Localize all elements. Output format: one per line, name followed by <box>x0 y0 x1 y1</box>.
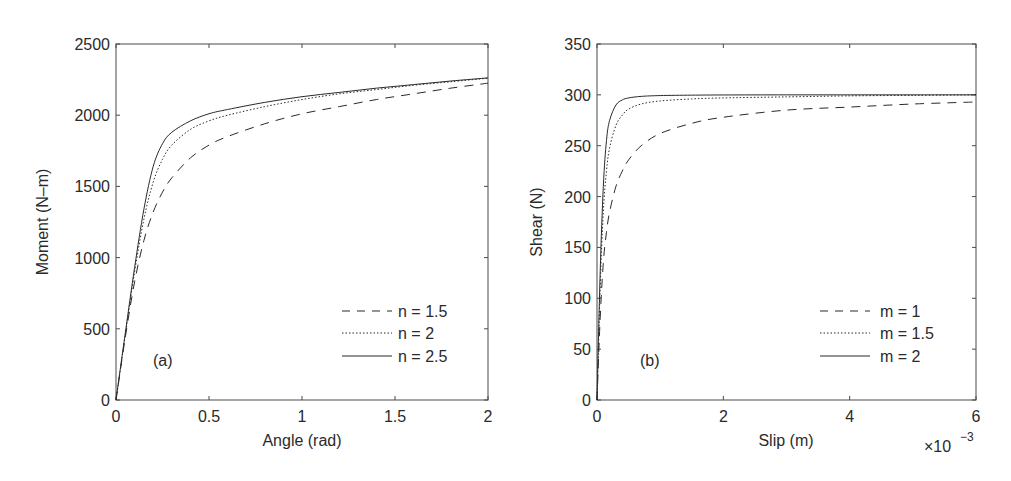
legend-label: m = 1.5 <box>880 325 934 342</box>
y-tick-label: 0 <box>582 392 591 409</box>
legend-b: m = 1 m = 1.5 m = 2 <box>820 303 934 365</box>
x-tick-label: 0 <box>112 408 121 425</box>
x-tick-label: 0.5 <box>198 408 220 425</box>
chart-panel-b: 0246050100150200250300350 Slip (m) Shear… <box>528 36 981 455</box>
y-tick-label: 100 <box>564 290 591 307</box>
x-multiplier: ×10 −3 <box>924 430 974 455</box>
y-tick-label: 200 <box>564 189 591 206</box>
y-axis-label-a: Moment (N–m) <box>34 169 51 276</box>
axis-ticks-a: 00.511.5205001000150020002500 <box>74 36 492 425</box>
figure: 00.511.5205001000150020002500 Angle (rad… <box>0 0 1011 481</box>
x-axis-label-b: Slip (m) <box>758 432 813 449</box>
x-tick-label: 6 <box>972 408 981 425</box>
x-tick-label: 2 <box>484 408 493 425</box>
chart-panel-a: 00.511.5205001000150020002500 Angle (rad… <box>34 36 493 449</box>
panel-label-b: (b) <box>640 352 660 369</box>
x-tick-label: 1 <box>298 408 307 425</box>
legend-label: m = 2 <box>880 348 921 365</box>
y-tick-label: 250 <box>564 138 591 155</box>
plot-frame-b <box>597 44 976 400</box>
y-tick-label: 1500 <box>74 178 110 195</box>
y-tick-label: 1000 <box>74 250 110 267</box>
y-tick-label: 500 <box>83 321 110 338</box>
x-axis-label-a: Angle (rad) <box>262 432 341 449</box>
panel-label-a: (a) <box>153 352 173 369</box>
x-tick-label: 4 <box>845 408 854 425</box>
y-tick-label: 350 <box>564 36 591 53</box>
legend-label: n = 1.5 <box>398 303 447 320</box>
x-tick-label: 0 <box>593 408 602 425</box>
y-tick-label: 50 <box>573 341 591 358</box>
y-tick-label: 2500 <box>74 36 110 53</box>
x-multiplier-exponent: −3 <box>960 430 974 444</box>
legend-label: m = 1 <box>880 303 921 320</box>
y-tick-label: 300 <box>564 87 591 104</box>
y-tick-label: 2000 <box>74 107 110 124</box>
plot-frame-a <box>116 44 488 400</box>
y-axis-label-b: Shear (N) <box>528 187 545 256</box>
y-tick-label: 0 <box>101 392 110 409</box>
legend-label: n = 2 <box>398 325 434 342</box>
x-tick-label: 2 <box>719 408 728 425</box>
x-multiplier-base: ×10 <box>924 438 951 455</box>
legend-label: n = 2.5 <box>398 348 447 365</box>
y-tick-label: 150 <box>564 239 591 256</box>
legend-a: n = 1.5 n = 2 n = 2.5 <box>342 303 447 365</box>
x-tick-label: 1.5 <box>384 408 406 425</box>
axis-ticks-b: 0246050100150200250300350 <box>564 36 980 425</box>
